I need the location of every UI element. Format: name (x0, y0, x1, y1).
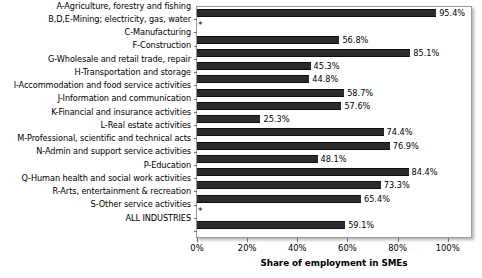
bar-value-label: 73.3% (384, 181, 410, 189)
value-axis-tick (398, 238, 399, 242)
category-tick (194, 178, 197, 179)
bar (197, 128, 384, 136)
category-label: A-Agriculture, forestry and fishing (0, 2, 191, 11)
bar (197, 155, 318, 163)
value-axis-tick-label: 80% (378, 243, 418, 253)
bar-value-label: 56.8% (342, 36, 368, 44)
bar-value-label: 58.7% (347, 89, 373, 97)
category-tick (194, 85, 197, 86)
category-label: N-Admin and support service activities (0, 147, 191, 156)
axis-title: Share of employment in SMEs (196, 258, 472, 268)
bar (197, 89, 344, 97)
bar (197, 9, 436, 17)
category-label: G-Wholesale and retail trade, repair (0, 55, 191, 64)
category-label: B,D,E-Mining; electricity, gas, water (0, 15, 191, 24)
category-label: Q-Human health and social work activitie… (0, 174, 191, 183)
category-tick (194, 138, 197, 139)
bar (197, 49, 410, 57)
category-label: M-Professional, scientific and technical… (0, 134, 191, 143)
category-tick (194, 191, 197, 192)
category-label: R-Arts, entertainment & recreation (0, 187, 191, 196)
category-tick (194, 72, 197, 73)
bar-value-label: 59.1% (348, 221, 374, 229)
bar-value-label: 57.6% (344, 102, 370, 110)
bar (197, 221, 345, 229)
bar (197, 62, 311, 70)
bar-value-label: 74.4% (387, 128, 413, 136)
category-label: K-Financial and insurance activities (0, 108, 191, 117)
value-axis-tick (347, 238, 348, 242)
bar (197, 75, 309, 83)
category-label: J-Information and communication (0, 94, 191, 103)
category-tick (194, 32, 197, 33)
category-tick (194, 46, 197, 47)
bar-value-label: 95.4% (439, 9, 465, 17)
value-axis-tick (197, 238, 198, 242)
bar (197, 195, 361, 203)
bar (197, 36, 339, 44)
value-axis-tick-label: 100% (428, 243, 468, 253)
bar-value-label: 65.4% (364, 195, 390, 203)
category-label: ALL INDUSTRIES (0, 214, 191, 223)
category-label: C-Manufacturing (0, 28, 191, 37)
bar-value-label: 76.9% (393, 142, 419, 150)
category-label: I-Accommodation and food service activit… (0, 81, 191, 90)
bar (197, 181, 381, 189)
category-tick (194, 125, 197, 126)
category-tick (194, 152, 197, 153)
bar-value-label: 44.8% (312, 75, 338, 83)
value-axis-tick (448, 238, 449, 242)
plot-area: 95.4%*56.8%85.1%45.3%44.8%58.7%57.6%25.3… (196, 6, 472, 238)
value-axis-tick-label: 40% (277, 243, 317, 253)
bar-value-label: 25.3% (263, 115, 289, 123)
value-axis-tick (247, 238, 248, 242)
bar (197, 142, 390, 150)
category-axis-labels: A-Agriculture, forestry and fishingB,D,E… (0, 8, 194, 236)
category-tick (194, 205, 197, 206)
value-axis-tick-label: 60% (327, 243, 367, 253)
plot-inner: 95.4%*56.8%85.1%45.3%44.8%58.7%57.6%25.3… (197, 7, 471, 237)
suppressed-value-marker: * (198, 21, 203, 29)
category-tick (194, 59, 197, 60)
category-label: L-Real estate activities (0, 121, 191, 130)
category-tick (194, 165, 197, 166)
suppressed-value-marker: * (198, 207, 203, 215)
category-label: P-Education (0, 161, 191, 170)
category-tick (194, 99, 197, 100)
category-tick (194, 112, 197, 113)
bar (197, 168, 409, 176)
category-tick (194, 218, 197, 219)
bar-value-label: 48.1% (321, 155, 347, 163)
value-axis-tick-label: 0% (177, 243, 217, 253)
value-axis-tick-label: 20% (227, 243, 267, 253)
bar (197, 102, 341, 110)
bar-value-label: 45.3% (314, 62, 340, 70)
category-label: H-Transportation and storage (0, 68, 191, 77)
bar (197, 115, 260, 123)
category-tick (194, 231, 197, 232)
category-tick (194, 19, 197, 20)
category-label: F-Construction (0, 41, 191, 50)
bar-value-label: 85.1% (413, 49, 439, 57)
bar-chart: A-Agriculture, forestry and fishingB,D,E… (0, 0, 482, 278)
bar-value-label: 84.4% (412, 168, 438, 176)
value-axis-tick (297, 238, 298, 242)
category-label: S-Other service activities (0, 200, 191, 209)
